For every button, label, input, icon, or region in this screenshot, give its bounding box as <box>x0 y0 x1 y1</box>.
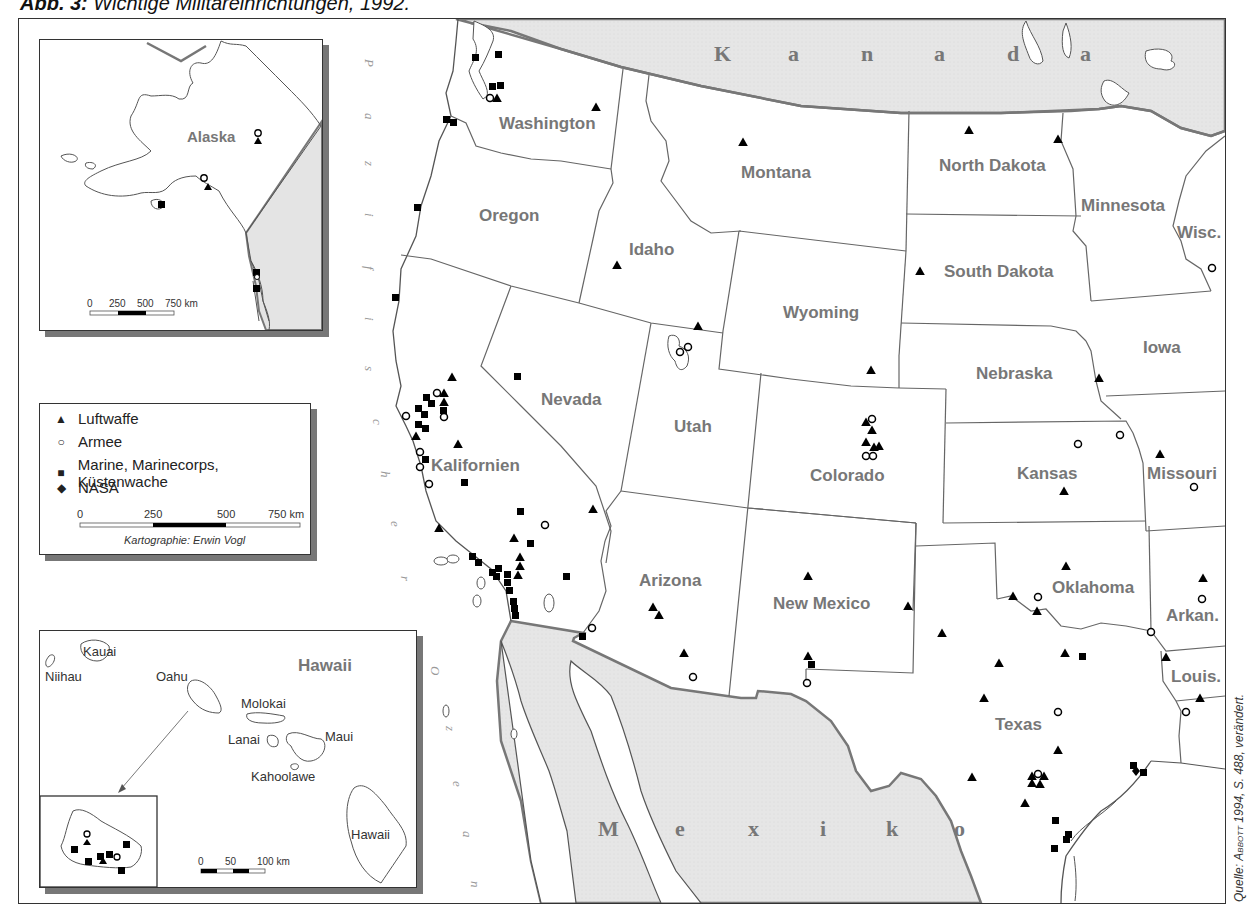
svg-text:O: O <box>428 666 443 676</box>
cartography-credit: Kartographie: Erwin Vogl <box>124 534 245 546</box>
gulf-coast <box>1061 761 1151 903</box>
svg-text:i: i <box>362 317 377 321</box>
figure-caption: Wichtige Militäreinrichtungen, 1992. <box>93 0 410 14</box>
state-label-north-dakota: North Dakota <box>939 156 1046 175</box>
state-label-utah: Utah <box>674 417 712 436</box>
svg-text:a: a <box>460 831 475 838</box>
alaska-inset: Alaska 0 250 500 750 km <box>39 39 323 331</box>
state-label-nebraska: Nebraska <box>976 364 1053 383</box>
state-label-oregon: Oregon <box>479 206 539 225</box>
svg-text:500: 500 <box>137 298 154 309</box>
source-suffix: 1994, S. 488, verändert. <box>1232 694 1246 826</box>
state-label-minnesota: Minnesota <box>1081 196 1166 215</box>
svg-text:z: z <box>443 725 458 731</box>
hawaii-map: Kauai Niihau Oahu Molokai Lanai Maui Kah… <box>40 631 416 887</box>
square-icon: ■ <box>54 466 68 480</box>
barrier-islands <box>1071 801 1116 901</box>
legend-panel: ▲ Luftwaffe ○ Armee ■ Marine, Marinecorp… <box>39 403 311 555</box>
svg-text:i: i <box>362 213 377 217</box>
svg-text:o: o <box>954 816 965 841</box>
diamond-icon: ◆ <box>54 481 68 495</box>
state-label-south-dakota: South Dakota <box>944 262 1054 281</box>
svg-text:750 km: 750 km <box>268 508 304 520</box>
state-label-oklahoma: Oklahoma <box>1052 578 1135 597</box>
label-big-island: Hawaii <box>351 827 390 842</box>
figure-title: Abb. 3: Wichtige Militäreinrichtungen, 1… <box>20 0 410 15</box>
svg-text:e: e <box>675 816 685 841</box>
svg-text:f: f <box>362 266 377 272</box>
source-note: Quelle: Abbott 1994, S. 488, verändert. <box>1232 694 1246 902</box>
svg-text:0: 0 <box>77 508 83 520</box>
state-label-kansas: Kansas <box>1017 464 1077 483</box>
hawaii-scale-bar: 0 50 100 km <box>198 856 290 873</box>
legend-label: Luftwaffe <box>78 410 139 427</box>
legend-item-nasa: ◆ NASA <box>54 479 119 496</box>
svg-text:n: n <box>468 881 483 888</box>
svg-text:d: d <box>1007 41 1019 66</box>
svg-text:x: x <box>748 816 759 841</box>
state-label-nevada: Nevada <box>541 390 602 409</box>
svg-text:c: c <box>370 419 385 425</box>
label-molokai: Molokai <box>241 696 286 711</box>
svg-text:750 km: 750 km <box>165 298 198 309</box>
zoom-arrow-line <box>121 711 188 789</box>
svg-text:P: P <box>362 58 377 67</box>
label-oahu: Oahu <box>156 669 188 684</box>
svg-text:500: 500 <box>217 508 235 520</box>
label-kahoolawe: Kahoolawe <box>251 769 315 784</box>
svg-text:M: M <box>598 816 619 841</box>
state-label-idaho: Idaho <box>629 240 674 259</box>
circle-icon: ○ <box>54 435 68 449</box>
svg-text:e: e <box>450 781 465 787</box>
label-kauai: Kauai <box>83 644 116 659</box>
canada-territory <box>246 121 322 330</box>
label-lanai: Lanai <box>228 732 260 747</box>
island-oahu <box>187 680 221 713</box>
triangle-icon: ▲ <box>54 412 68 426</box>
gulf-coast-louisiana <box>1151 761 1225 769</box>
state-label-california: Kalifornien <box>431 456 520 475</box>
label-maui: Maui <box>325 729 353 744</box>
island-molokai <box>247 713 285 723</box>
arrow-head-icon <box>118 784 126 793</box>
legend-item-luftwaffe: ▲ Luftwaffe <box>54 410 139 427</box>
figure-number: Abb. 3: <box>20 0 88 14</box>
state-label-new-mexico: New Mexico <box>773 594 870 613</box>
state-label-iowa: Iowa <box>1143 338 1181 357</box>
svg-text:z: z <box>362 160 377 166</box>
alaska-scale-bar: 0 250 500 750 km <box>87 298 198 315</box>
svg-text:r: r <box>398 576 413 582</box>
state-label-washington: Washington <box>499 114 596 133</box>
svg-text:50: 50 <box>225 856 237 867</box>
svg-text:0: 0 <box>198 856 204 867</box>
legend-item-armee: ○ Armee <box>54 433 122 450</box>
bering-strait-lines <box>147 43 206 61</box>
svg-text:250: 250 <box>144 508 162 520</box>
svg-text:a: a <box>362 113 377 120</box>
island-maui <box>286 733 325 762</box>
source-prefix: Quelle: <box>1232 861 1246 902</box>
state-label-wisconsin: Wisc. <box>1177 223 1221 242</box>
alaska-peninsula <box>61 154 95 169</box>
svg-text:a: a <box>788 41 799 66</box>
svg-text:s: s <box>362 366 377 371</box>
svg-text:K: K <box>714 41 731 66</box>
island-lanai <box>267 735 278 747</box>
svg-text:a: a <box>934 41 945 66</box>
state-label-montana: Montana <box>741 163 811 182</box>
svg-text:e: e <box>388 521 403 527</box>
svg-text:0: 0 <box>87 298 93 309</box>
svg-text:h: h <box>378 471 393 478</box>
alaska-map: Alaska 0 250 500 750 km <box>40 40 322 330</box>
svg-text:k: k <box>886 816 899 841</box>
legend-label: NASA <box>78 479 119 496</box>
island-niihau <box>46 655 55 667</box>
state-label-wyoming: Wyoming <box>783 303 859 322</box>
state-label-colorado: Colorado <box>810 466 885 485</box>
svg-text:250: 250 <box>109 298 126 309</box>
legend-label: Armee <box>78 433 122 450</box>
hawaii-inset: Kauai Niihau Oahu Molokai Lanai Maui Kah… <box>39 630 417 888</box>
us-west-coast <box>393 19 511 621</box>
state-label-arkansas: Arkan. <box>1166 606 1219 625</box>
svg-text:n: n <box>861 41 873 66</box>
